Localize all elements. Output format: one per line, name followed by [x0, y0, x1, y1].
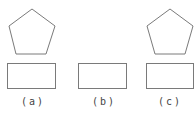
rectangle-a: [8, 64, 56, 89]
panel-label-c: (c): [150, 96, 190, 107]
rectangle-c: [147, 64, 194, 89]
panel-label-a: (a): [13, 96, 53, 107]
pentagon-c: [147, 9, 193, 54]
rectangle-b: [79, 64, 127, 89]
pentagon-a: [9, 9, 55, 54]
panel-label-b: (b): [84, 96, 124, 107]
